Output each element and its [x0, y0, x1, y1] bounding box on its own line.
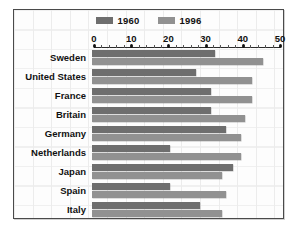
- category-label: Italy: [14, 205, 92, 215]
- chart-legend: 1960 1996: [14, 16, 283, 26]
- category-label: Spain: [14, 186, 92, 196]
- x-axis-tick-label: 0: [91, 34, 96, 44]
- bar-1996: [92, 210, 222, 217]
- bar-group: [92, 49, 278, 66]
- bar-group: [92, 182, 278, 199]
- x-axis-tick-label: 30: [200, 34, 211, 44]
- chart-row: United States: [14, 67, 283, 86]
- chart-row: Japan: [14, 162, 283, 181]
- chart-row: Netherlands: [14, 143, 283, 162]
- bar-group: [92, 144, 278, 161]
- legend-swatch-1960: [96, 17, 113, 24]
- bar-1960: [92, 88, 211, 95]
- chart-plot-area: SwedenUnited StatesFranceBritainGermanyN…: [14, 48, 283, 219]
- bar-group: [92, 106, 278, 123]
- category-label: United States: [14, 72, 92, 82]
- category-label: Britain: [14, 110, 92, 120]
- chart-row: Sweden: [14, 48, 283, 67]
- chart-row: France: [14, 86, 283, 105]
- bar-1996: [92, 115, 245, 122]
- bar-group: [92, 201, 278, 218]
- bar-1996: [92, 58, 263, 65]
- x-axis-tick-label: 20: [163, 34, 174, 44]
- bar-1960: [92, 183, 170, 190]
- bar-group: [92, 125, 278, 142]
- category-label: France: [14, 91, 92, 101]
- chart-row: Britain: [14, 105, 283, 124]
- bar-1960: [92, 107, 211, 114]
- bar-1960: [92, 202, 200, 209]
- chart-frame: 1960 1996 01020304050 SwedenUnited State…: [13, 9, 284, 219]
- x-axis-tick-label: 40: [238, 34, 249, 44]
- bar-1996: [92, 96, 252, 103]
- bar-1960: [92, 50, 215, 57]
- category-label: Netherlands: [14, 148, 92, 158]
- bar-group: [92, 87, 278, 104]
- bar-1996: [92, 172, 222, 179]
- bar-group: [92, 163, 278, 180]
- x-axis-tick-label: 10: [126, 34, 137, 44]
- bar-1960: [92, 145, 170, 152]
- bar-1996: [92, 153, 241, 160]
- category-label: Sweden: [14, 53, 92, 63]
- legend-swatch-1996: [158, 17, 175, 24]
- legend-entry-1960: 1960: [96, 16, 140, 26]
- bar-1996: [92, 134, 241, 141]
- bar-1996: [92, 77, 252, 84]
- bar-1960: [92, 69, 196, 76]
- chart-row: Italy: [14, 200, 283, 219]
- chart-row: Spain: [14, 181, 283, 200]
- bar-1996: [92, 191, 226, 198]
- category-label: Germany: [14, 129, 92, 139]
- legend-entry-1996: 1996: [158, 16, 202, 26]
- category-label: Japan: [14, 167, 92, 177]
- legend-label-1960: 1960: [118, 16, 140, 26]
- bar-1960: [92, 126, 226, 133]
- bar-1960: [92, 164, 233, 171]
- bar-group: [92, 68, 278, 85]
- chart-row: Germany: [14, 124, 283, 143]
- legend-label-1996: 1996: [180, 16, 202, 26]
- x-axis-tick-label: 50: [275, 34, 286, 44]
